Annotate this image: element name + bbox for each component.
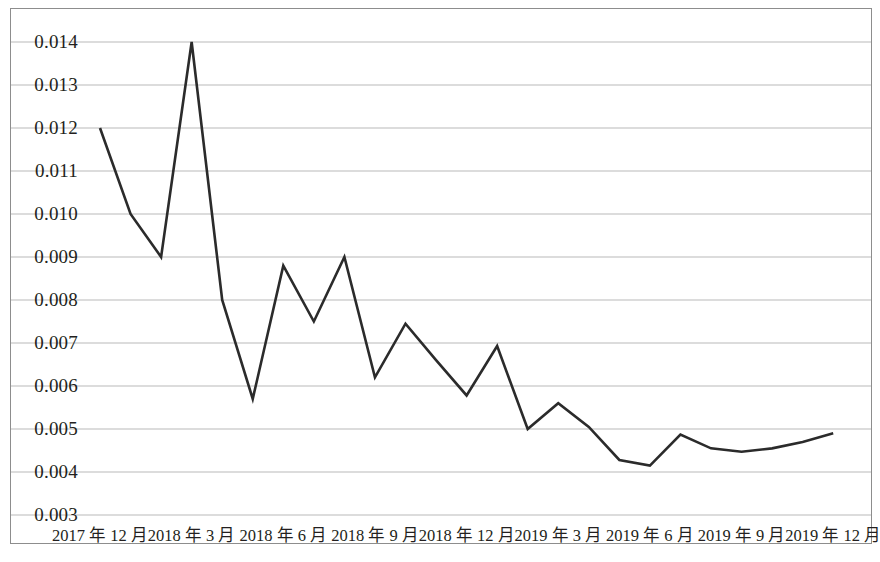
y-axis-tick-label: 0.005: [34, 419, 78, 438]
y-axis-tick-label: 0.012: [34, 118, 78, 137]
y-axis-tick-label: 0.013: [34, 75, 78, 94]
data-line-group: [100, 42, 833, 466]
y-axis-tick-label: 0.014: [34, 32, 78, 51]
y-axis-tick-label: 0.004: [34, 462, 78, 481]
y-axis-tick-label: 0.010: [34, 204, 78, 223]
line-chart: 0.0140.0130.0120.0110.0100.0090.0080.007…: [0, 0, 880, 562]
gridlines: [11, 42, 871, 515]
y-axis-tick-label: 0.006: [34, 376, 78, 395]
y-axis-tick-label: 0.011: [35, 161, 78, 180]
chart-canvas: [0, 0, 880, 562]
x-axis-tick-label: 2019 年 12 月: [753, 528, 880, 545]
y-axis-tick-label: 0.003: [34, 505, 78, 524]
y-axis-tick-label: 0.008: [34, 290, 78, 309]
y-axis-tick-label: 0.007: [34, 333, 78, 352]
y-axis-tick-label: 0.009: [34, 247, 78, 266]
data-line-series-1: [100, 42, 833, 466]
